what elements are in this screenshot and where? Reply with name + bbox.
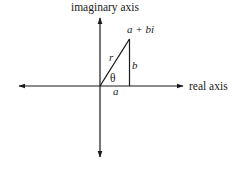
imaginary-axis-label: imaginary axis xyxy=(71,1,140,14)
imaginary-part-label: b xyxy=(132,59,138,71)
complex-plane-diagram: imaginary axis real axis a + bi r θ b a xyxy=(0,0,240,182)
real-axis-label: real axis xyxy=(189,80,228,92)
modulus-label: r xyxy=(109,51,114,63)
real-part-label: a xyxy=(113,85,119,97)
angle-label: θ xyxy=(110,72,116,84)
point-label: a + bi xyxy=(127,23,154,35)
